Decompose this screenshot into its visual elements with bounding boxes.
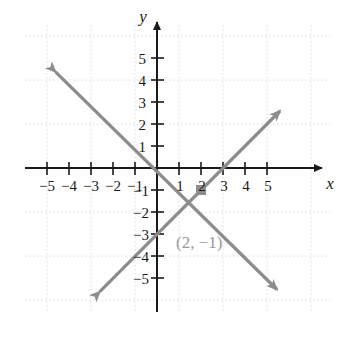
y-axis-label: y xyxy=(137,7,147,26)
x-tick-label-5: 5 xyxy=(264,178,272,194)
y-tick-label-neg3: −3 xyxy=(133,227,149,243)
x-tick-label-neg3: −3 xyxy=(83,178,99,194)
x-tick-label-neg5: −5 xyxy=(39,178,55,194)
x-tick-label-neg2: −2 xyxy=(105,178,121,194)
y-tick-label-neg2: −2 xyxy=(133,205,149,221)
y-tick-label-1: 1 xyxy=(139,139,147,155)
graph-canvas: −5 −4 −3 −2 −1 1 2 3 4 5 5 4 3 2 1 −1 −2… xyxy=(0,0,347,337)
y-tick-label-3: 3 xyxy=(139,95,147,111)
x-axis-label: x xyxy=(325,174,334,193)
x-tick-label-2: 2 xyxy=(198,178,206,194)
y-tick-label-5: 5 xyxy=(139,51,147,67)
y-tick-label-neg1: −1 xyxy=(133,183,149,199)
x-tick-label-1: 1 xyxy=(176,178,184,194)
x-tick-label-4: 4 xyxy=(242,178,250,194)
y-tick-label-4: 4 xyxy=(139,73,147,89)
intersection-point-label: (2, −1) xyxy=(176,233,222,252)
y-tick-label-neg4: −4 xyxy=(133,249,149,265)
x-tick-label-3: 3 xyxy=(220,178,228,194)
coordinate-graph-figure: −5 −4 −3 −2 −1 1 2 3 4 5 5 4 3 2 1 −1 −2… xyxy=(0,0,347,337)
x-tick-label-neg4: −4 xyxy=(61,178,77,194)
y-tick-label-2: 2 xyxy=(139,117,147,133)
y-tick-label-neg5: −5 xyxy=(133,271,149,287)
